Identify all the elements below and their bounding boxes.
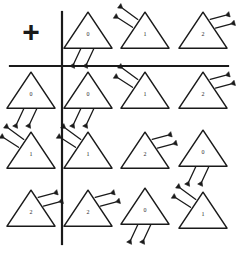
table-canvas: +012001211202201 — [0, 0, 237, 255]
triangle-digit: 1 — [144, 91, 147, 97]
triangle-addition-table: +012001211202201 — [0, 0, 237, 255]
triangle-digit: 2 — [87, 209, 90, 215]
triangle-digit: 2 — [202, 31, 205, 37]
plus-icon: + — [22, 15, 40, 48]
triangle-digit: 2 — [30, 209, 33, 215]
triangle-digit: 2 — [202, 91, 205, 97]
triangle-digit: 0 — [202, 149, 205, 155]
triangle-digit: 1 — [202, 211, 205, 217]
triangle-digit: 1 — [30, 151, 33, 157]
triangle-digit: 1 — [144, 31, 147, 37]
triangle-digit: 0 — [87, 31, 90, 37]
triangle-digit: 1 — [87, 151, 90, 157]
operator-cell: + — [22, 15, 40, 48]
triangle-digit: 0 — [144, 207, 147, 213]
triangle-digit: 2 — [144, 151, 147, 157]
triangle-digit: 0 — [30, 91, 33, 97]
triangle-digit: 0 — [87, 91, 90, 97]
